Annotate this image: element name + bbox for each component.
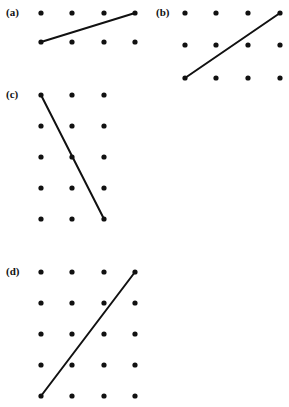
figure-background: [0, 0, 289, 407]
grid-dot: [213, 42, 218, 47]
grid-dot: [132, 39, 137, 44]
panel-a-label: (a): [6, 6, 19, 19]
panel-c-label: (c): [6, 88, 19, 101]
grid-dot: [69, 216, 74, 221]
grid-dot: [101, 300, 106, 305]
grid-dot: [69, 123, 74, 128]
dot-grid-figure: (a) (b) (c) (d): [0, 0, 289, 407]
grid-dot: [69, 362, 74, 367]
grid-dot: [69, 185, 74, 190]
grid-dot: [277, 42, 282, 47]
grid-dot: [38, 123, 43, 128]
grid-dot: [38, 185, 43, 190]
grid-dot: [38, 10, 43, 15]
grid-dot: [101, 154, 106, 159]
grid-dot: [101, 10, 106, 15]
grid-dot: [38, 269, 43, 274]
grid-dot: [101, 269, 106, 274]
grid-dot: [213, 75, 218, 80]
grid-dot: [69, 300, 74, 305]
grid-dot: [38, 154, 43, 159]
panel-d-label: (d): [6, 265, 20, 278]
grid-dot: [245, 42, 250, 47]
grid-dot: [69, 10, 74, 15]
grid-dot: [101, 92, 106, 97]
grid-dot: [38, 216, 43, 221]
grid-dot: [38, 362, 43, 367]
grid-dot: [69, 39, 74, 44]
grid-dot: [245, 10, 250, 15]
grid-dot: [132, 331, 137, 336]
grid-dot: [101, 331, 106, 336]
grid-dot: [213, 10, 218, 15]
grid-dot: [132, 362, 137, 367]
grid-dot: [101, 39, 106, 44]
grid-dot: [132, 300, 137, 305]
panel-b-label: (b): [156, 6, 170, 19]
grid-dot: [101, 185, 106, 190]
grid-dot: [132, 393, 137, 398]
grid-dot: [277, 75, 282, 80]
grid-dot: [69, 269, 74, 274]
grid-dot: [182, 10, 187, 15]
grid-dot: [182, 42, 187, 47]
grid-dot: [38, 300, 43, 305]
grid-dot: [69, 393, 74, 398]
grid-dot: [69, 331, 74, 336]
grid-dot: [245, 75, 250, 80]
grid-dot: [101, 362, 106, 367]
grid-dot: [101, 393, 106, 398]
grid-dot: [101, 123, 106, 128]
grid-dot: [38, 331, 43, 336]
grid-dot: [69, 92, 74, 97]
